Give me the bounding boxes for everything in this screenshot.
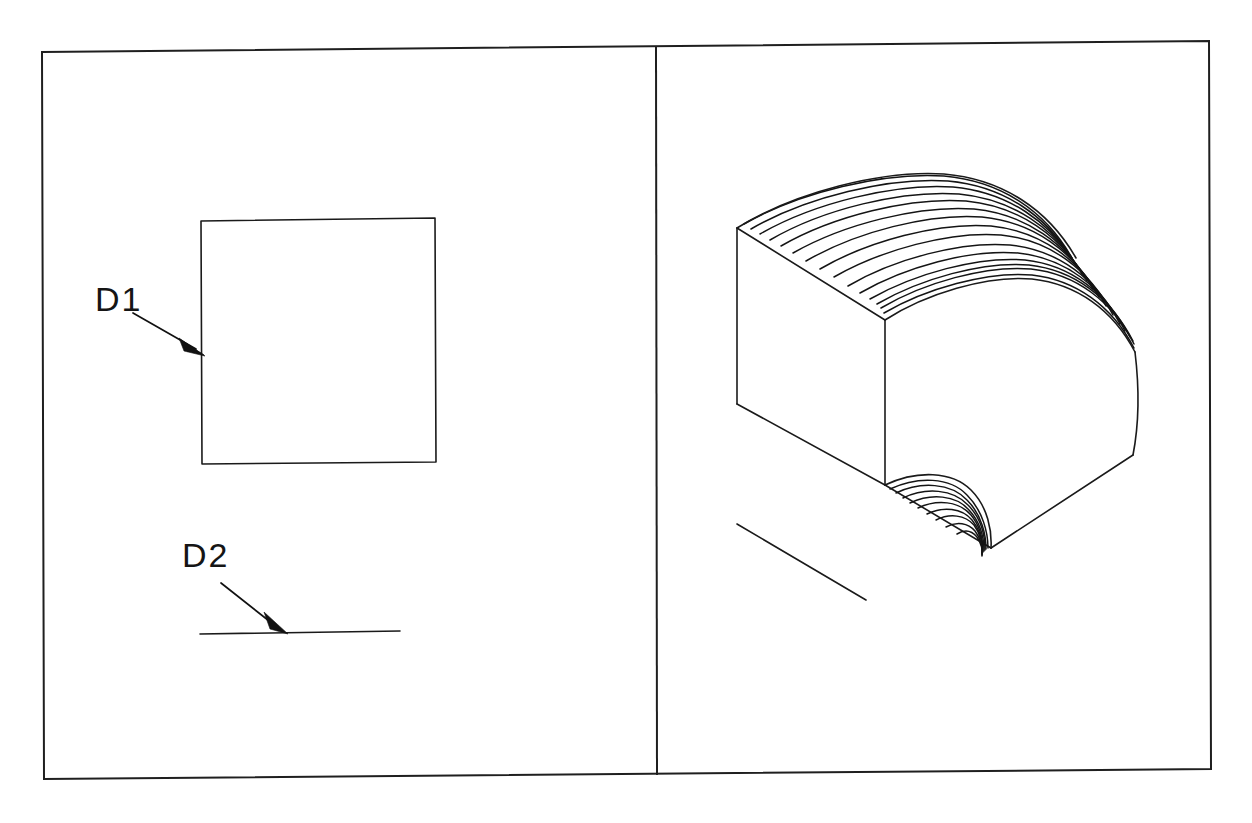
annotation-d2: D2 bbox=[182, 536, 288, 634]
d2-arrowhead bbox=[264, 612, 288, 634]
square-face-outline bbox=[201, 218, 436, 464]
top-fillet-mesh bbox=[744, 175, 1134, 348]
border-rectangle bbox=[42, 41, 1211, 779]
bottom-right-edge bbox=[991, 455, 1133, 548]
bottom-left-edge bbox=[737, 404, 885, 485]
d1-label: D1 bbox=[95, 280, 142, 318]
annotation-d1: D1 bbox=[95, 280, 205, 356]
right-panel-isometric-view bbox=[737, 174, 1138, 600]
drawing-sheet: D1 D2 bbox=[0, 0, 1252, 823]
left-panel-orthographic-view: D1 D2 bbox=[95, 218, 436, 634]
ground-reference-line bbox=[737, 524, 866, 600]
d2-label: D2 bbox=[182, 536, 229, 574]
right-face-outer-arc bbox=[1133, 352, 1138, 455]
fillet-left-end-edge bbox=[737, 228, 885, 320]
rounded-edge-block bbox=[737, 174, 1138, 556]
drawing-border bbox=[42, 41, 1211, 779]
horizontal-edge-line bbox=[200, 631, 400, 634]
bottom-fillet-surface bbox=[885, 475, 991, 556]
drawing-canvas: D1 D2 bbox=[0, 0, 1252, 823]
panel-divider bbox=[656, 47, 657, 774]
